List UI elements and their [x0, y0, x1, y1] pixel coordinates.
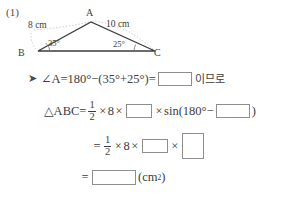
- line2-times-2: ×: [114, 105, 124, 118]
- triangle-figure: A B C 8 cm 10 cm 35° 25°: [18, 8, 178, 66]
- line4-equals: =: [80, 171, 90, 184]
- angle-label-b: 35°: [48, 39, 60, 48]
- line3-times-3: ×: [170, 140, 180, 153]
- line1-korean-suffix: 이므로: [195, 74, 225, 85]
- line2-times-1: ×: [98, 105, 108, 118]
- side-label-ab: 8 cm: [28, 21, 47, 31]
- worksheet-page: (1) A B C 8 cm 10 cm 35° 25° ➤ ∠A=180°−(…: [0, 0, 289, 204]
- answer-blank-area[interactable]: [92, 170, 136, 185]
- angle-label-c: 25°: [113, 40, 125, 49]
- fraction-numerator: 1: [104, 135, 111, 146]
- solution-line-3: = 1 2 × 8 × ×: [92, 133, 206, 159]
- line4-unit-open: (cm: [138, 171, 157, 184]
- line2-lhs: △ABC=: [44, 105, 86, 118]
- line4-unit-close: ): [161, 171, 165, 184]
- fraction-one-half-line2: 1 2: [86, 100, 97, 122]
- line2-close-paren: ): [252, 105, 256, 118]
- problem-number: (1): [6, 6, 19, 18]
- answer-blank-angle-inside-sin[interactable]: [216, 104, 250, 118]
- side-label-ac: 10 cm: [106, 20, 129, 30]
- solution-line-1: ➤ ∠A=180°−(35°+25°)= 이므로: [28, 72, 225, 86]
- fraction-denominator: 2: [88, 111, 95, 123]
- dotted-arc-icon-b: [31, 33, 37, 51]
- vertex-label-a: A: [86, 8, 93, 18]
- line1-expression: ∠A=180°−(35°+25°)=: [41, 73, 156, 86]
- line3-equals: =: [92, 140, 102, 153]
- answer-blank-angle-a[interactable]: [158, 72, 192, 86]
- answer-blank-side-length-2[interactable]: [142, 139, 168, 153]
- fraction-numerator: 1: [88, 100, 95, 111]
- vertex-label-c: C: [154, 48, 161, 58]
- line2-times-3: ×: [154, 105, 164, 118]
- line3-times-2: ×: [130, 140, 140, 153]
- line3-times-1: ×: [113, 140, 123, 153]
- solution-line-2: △ABC= 1 2 × 8 × × sin ( 180°− ): [44, 100, 256, 122]
- line2-sin: sin: [164, 105, 179, 118]
- fraction-one-half-line3: 1 2: [102, 135, 113, 157]
- answer-blank-sin-value[interactable]: [182, 133, 204, 159]
- angle-arc-icon-c: [134, 45, 136, 52]
- right-arrow-icon: ➤: [28, 73, 37, 84]
- vertex-label-b: B: [18, 48, 25, 58]
- answer-blank-side-length[interactable]: [126, 104, 152, 118]
- solution-line-4: = (cm 2 ): [80, 170, 165, 185]
- line2-inner-expression: 180°−: [183, 105, 214, 118]
- fraction-denominator: 2: [104, 146, 111, 158]
